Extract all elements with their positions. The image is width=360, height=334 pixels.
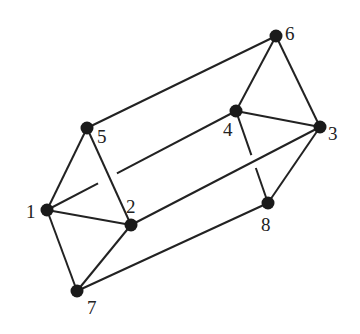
vertex-4 — [230, 105, 243, 118]
edge-7-2 — [77, 225, 131, 291]
vertex-label-1: 1 — [26, 201, 36, 222]
graph-diagram: 12345678 — [0, 0, 360, 334]
vertex-label-3: 3 — [328, 123, 338, 144]
nodes-layer — [41, 30, 327, 298]
edge-1-7 — [47, 210, 77, 291]
edge-5-1 — [47, 128, 87, 210]
edge-1-4 — [47, 183, 98, 210]
vertex-1 — [41, 204, 54, 217]
edge-1-2 — [47, 210, 131, 225]
vertex-label-6: 6 — [285, 23, 295, 44]
vertex-3 — [314, 121, 327, 134]
edge-6-3 — [276, 36, 320, 127]
vertex-label-4: 4 — [223, 119, 233, 140]
vertex-8 — [262, 197, 275, 210]
edge-1-4 — [117, 111, 236, 173]
vertex-5 — [81, 122, 94, 135]
vertex-7 — [71, 285, 84, 298]
edges-layer — [47, 36, 320, 291]
edge-2-3 — [131, 127, 320, 225]
vertex-label-5: 5 — [97, 126, 107, 147]
edge-4-3 — [236, 111, 320, 127]
vertex-6 — [270, 30, 283, 43]
edge-6-4 — [236, 36, 276, 111]
edge-7-8 — [77, 203, 268, 291]
edge-8-3 — [268, 127, 320, 203]
vertex-label-7: 7 — [87, 297, 97, 318]
edge-4-8 — [236, 111, 251, 155]
edge-5-2 — [87, 128, 131, 225]
vertex-label-8: 8 — [261, 214, 271, 235]
vertex-2 — [125, 219, 138, 232]
vertex-label-2: 2 — [126, 196, 136, 217]
